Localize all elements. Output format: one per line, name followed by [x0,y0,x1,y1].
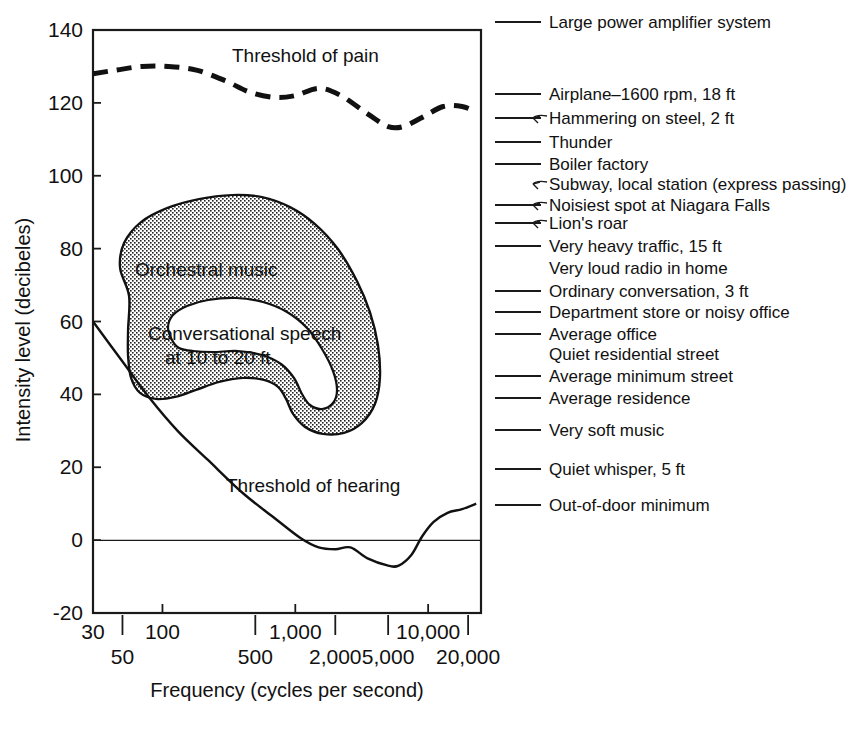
reference-scale-label: Subway, local station (express passing) [549,175,846,194]
reference-scale-label: Quiet whisper, 5 ft [549,460,685,479]
reference-scale-arrowhead [533,221,540,228]
reference-scale-arrowhead [533,182,540,189]
threshold-of-pain-label: Threshold of pain [232,45,379,66]
y-tick-label: 120 [48,91,83,114]
threshold-of-pain-curve [93,66,476,128]
y-axis-title: Intensity level (decibeles) [12,218,34,443]
region-group [120,195,380,435]
reference-scale-label: Average residence [549,389,690,408]
orchestral-music-label: Orchestral music [135,259,278,280]
y-tick-label: 100 [48,164,83,187]
y-tick-label: 60 [60,310,83,333]
x-tick-label-lower: 2,000 [309,645,362,668]
figure-container: 140120100806040200-20 Intensity level (d… [0,0,850,729]
reference-scale-leaders [533,115,547,228]
reference-scale-label: Out-of-door minimum [549,496,710,515]
reference-scale-label: Very soft music [549,421,665,440]
x-axis-ticks-upper [162,604,428,613]
x-tick-label-lower: 20,000 [436,645,500,668]
reference-scale-label: Ordinary conversation, 3 ft [549,282,749,301]
x-tick-label-upper: 10,000 [396,620,460,643]
reference-scale-label: Average office [549,325,657,344]
threshold-of-hearing-label: Threshold of hearing [226,475,400,496]
reference-scale-ticks [495,22,541,505]
audibility-chart: 140120100806040200-20 Intensity level (d… [0,0,850,729]
x-tick-label-lower: 50 [111,645,134,668]
reference-scale-label: Department store or noisy office [549,303,790,322]
reference-scale-label: Large power amplifier system [549,13,771,32]
x-tick-label-lower: 5,000 [362,645,415,668]
reference-scale-arrowhead [533,203,540,210]
y-tick-label: 20 [60,455,83,478]
x-axis-tick-labels-upper: 301001,00010,000 [81,620,460,643]
x-tick-label-upper: 30 [81,620,104,643]
reference-scale-label: Lion's roar [549,214,628,233]
y-tick-label: 0 [71,528,83,551]
reference-scale-label: Hammering on steel, 2 ft [549,109,734,128]
x-tick-label-lower: 500 [238,645,273,668]
y-axis-tick-labels: 140120100806040200-20 [48,18,83,624]
y-tick-label: 140 [48,18,83,41]
reference-scale-label: Boiler factory [549,155,649,174]
reference-scale-label: Airplane–1600 rpm, 18 ft [549,85,735,104]
reference-scale-label: Quiet residential street [549,345,719,364]
x-tick-label-upper: 1,000 [269,620,322,643]
x-axis-tick-labels-lower: 505002,0005,00020,000 [111,645,500,668]
reference-scale-label: Average minimum street [549,367,733,386]
reference-scale-label: Noisiest spot at Niagara Falls [549,196,770,215]
reference-scale-label: Thunder [549,133,613,152]
conversational-speech-label-line2: at 10 to 20 ft [165,347,271,368]
reference-scale-label: Very heavy traffic, 15 ft [549,237,722,256]
x-tick-label-upper: 100 [145,620,180,643]
y-tick-label: 40 [60,382,83,405]
reference-scale-arrowhead [533,116,540,123]
conversational-speech-label-line1: Conversational speech [148,323,341,344]
reference-scale-label: Very loud radio in home [549,259,728,278]
y-tick-label: 80 [60,237,83,260]
y-tick-label: -20 [53,601,83,624]
reference-scale-labels: Large power amplifier systemAirplane–160… [549,13,846,515]
x-axis-title: Frequency (cycles per second) [150,679,423,701]
